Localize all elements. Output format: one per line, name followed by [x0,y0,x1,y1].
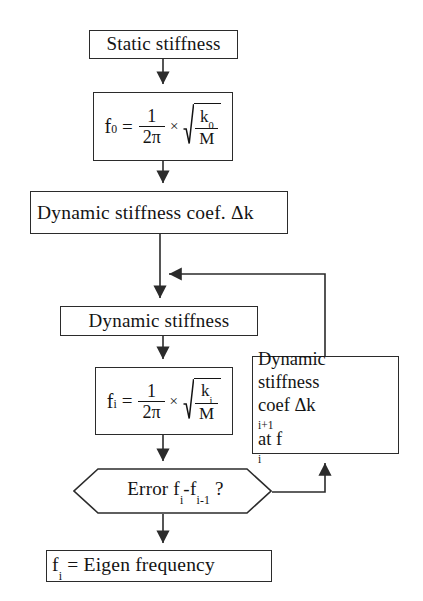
formula-fi-lhs-var: f [107,390,114,413]
node-static-stiffness-label: Static stiffness [106,34,220,55]
radical-sign-icon [183,103,194,150]
formula-fi-radicand: ki M [194,378,221,425]
node-dynamic-stiffness-coef-next[interactable]: Dynamic stiffness coef Δki+1 at fi [252,356,399,454]
formula-fi-expression: fi = 1 2π × ki M [107,378,221,425]
node-eigen-frequency-result[interactable]: fi = Eigen frequency [46,550,272,582]
node-formula-f0[interactable]: f0 = 1 2π × k0 M [93,92,233,161]
formula-f0-times: × [170,118,178,135]
radical-sign-icon [183,378,194,425]
formula-f0-fraction-numerator: 1 [143,107,160,126]
eigen-result-subscript: i [59,569,63,583]
node-static-stiffness[interactable]: Static stiffness [89,30,238,59]
formula-fi-radicand-denominator: M [195,403,218,422]
node-error-check-decision[interactable]: Error fi-fi-1 ? [73,468,272,514]
flowchart-canvas: Static stiffness f0 = 1 2π × k0 [0,0,423,601]
formula-f0-radicand-numerator-subscript: 0 [209,120,214,131]
error-check-subscript-1: i [180,494,183,507]
coef-next-subscript-2: i [258,454,326,465]
node-dynamic-stiffness[interactable]: Dynamic stiffness [60,306,258,336]
formula-f0-expression: f0 = 1 2π × k0 M [105,103,222,150]
formula-fi-radicand-numerator-subscript: i [209,395,212,406]
formula-fi-fraction: 1 2π [138,382,164,421]
formula-fi-equals: = [122,390,133,412]
coef-next-subscript-1: i+1 [258,420,326,431]
formula-f0-lhs-var: f [105,115,112,138]
formula-f0-equals: = [122,116,133,138]
formula-f0-fraction: 1 2π [139,107,165,146]
formula-f0-radicand: k0 M [194,103,221,150]
coef-next-line-3: coef Δki+1 at fi [258,394,326,462]
node-dynamic-stiffness-label: Dynamic stiffness [89,311,230,332]
formula-f0-sqrt: k0 M [183,103,221,150]
formula-f0-radicand-fraction: k0 M [195,108,218,148]
formula-fi-fraction-numerator: 1 [143,382,160,401]
coef-next-line-1: Dynamic [258,348,326,371]
node-eigen-frequency-result-label: fi = Eigen frequency [52,554,215,578]
connector-errorcheck-to-coefnext [272,463,325,492]
formula-fi-fraction-denominator: 2π [138,401,164,421]
formula-fi-times: × [170,393,178,410]
formula-f0-lhs-subscript: 0 [111,124,117,136]
formula-fi-radicand-numerator: ki [197,382,216,403]
formula-f0-fraction-denominator: 2π [139,126,165,146]
formula-f0-radicand-denominator: M [195,128,218,147]
node-formula-fi[interactable]: fi = 1 2π × ki M [95,367,233,435]
node-dynamic-stiffness-coef-label: Dynamic stiffness coef. Δk [37,202,254,223]
formula-fi-radicand-fraction: ki M [195,382,218,422]
node-dynamic-stiffness-coef[interactable]: Dynamic stiffness coef. Δk [30,191,288,234]
node-dynamic-stiffness-coef-next-label: Dynamic stiffness coef Δki+1 at fi [258,348,326,461]
formula-fi-sqrt: ki M [183,378,221,425]
node-error-check-label: Error fi-fi-1 ? [121,479,223,503]
formula-fi-lhs-subscript: i [113,399,116,411]
formula-f0-radicand-numerator: k0 [196,108,218,129]
coef-next-line-2: stiffness [258,371,326,394]
error-check-subscript-2: i-1 [196,494,210,507]
